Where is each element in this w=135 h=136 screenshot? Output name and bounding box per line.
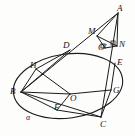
segment-BO — [21, 92, 70, 94]
point-label-b: B — [10, 87, 16, 96]
plane-label-alpha: α — [26, 113, 30, 122]
point-label-d: D — [63, 41, 70, 50]
geometry-figure: AMNO′DEHBOGFCα — [0, 0, 135, 136]
segment-O-prime-N — [105, 46, 117, 48]
figure-canvas — [0, 0, 135, 136]
point-label-e: E — [117, 58, 123, 67]
point-label-op: O′ — [98, 43, 106, 52]
segment-HO — [36, 69, 70, 94]
segment-BF — [21, 92, 57, 110]
segment-FC — [57, 110, 101, 117]
point-label-f: F — [54, 103, 60, 112]
point-label-o: O — [70, 94, 77, 103]
point-label-n: N — [119, 40, 125, 49]
point-label-h: H — [30, 61, 37, 70]
segment-BD — [21, 50, 70, 92]
point-label-a: A — [117, 4, 123, 13]
point-label-g: G — [113, 86, 120, 95]
point-label-c: C — [100, 120, 106, 129]
point-label-m: M — [88, 27, 96, 36]
